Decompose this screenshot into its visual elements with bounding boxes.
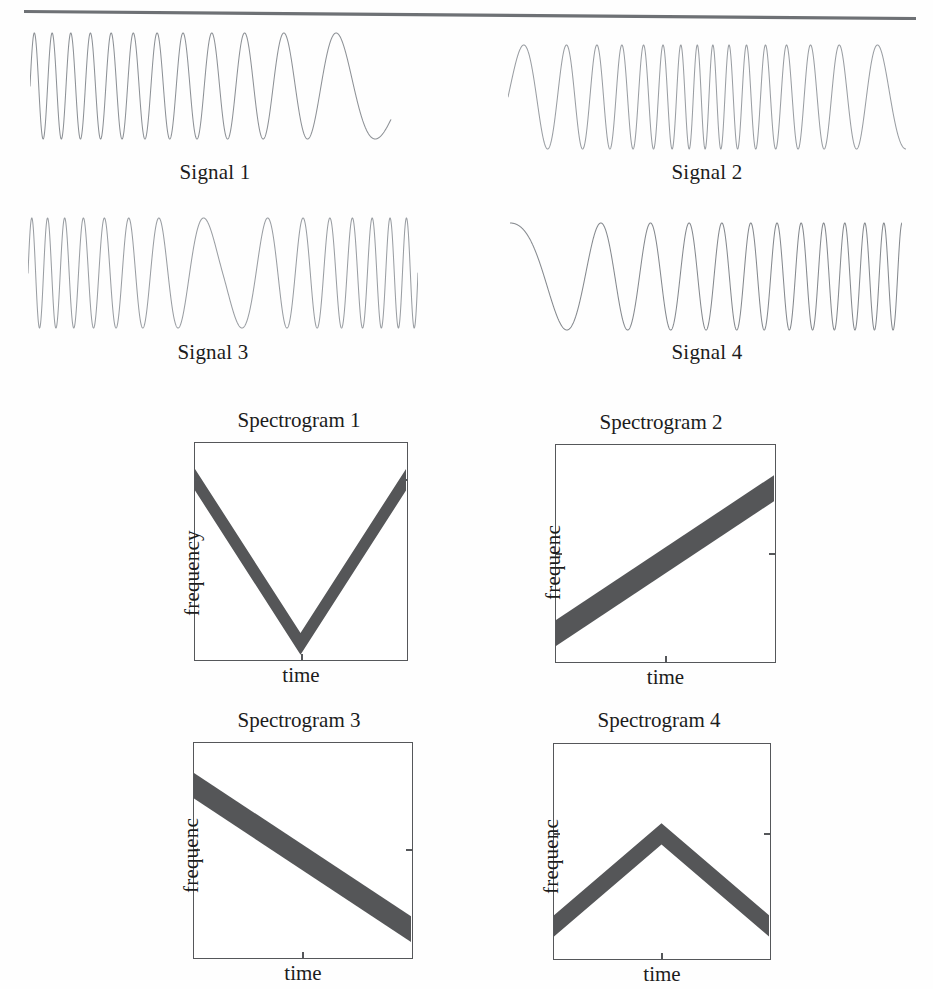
spectrogram-1-ytick-right: [401, 479, 408, 481]
figure-page: Signal 1 Signal 2 Signal 3 Signal 4 Spec…: [0, 0, 933, 989]
signal-caption-2: Signal 2: [612, 160, 802, 185]
spectrogram-3-xtick: [302, 952, 304, 959]
spectrogram-plot-4: [553, 743, 771, 960]
signal-plot-2: [508, 42, 906, 152]
spectrogram-plot-3: [193, 742, 413, 959]
signal-caption-4: Signal 4: [612, 340, 802, 365]
spectrogram-1-xtick: [301, 654, 303, 661]
spectrogram-title-3: Spectrogram 3: [144, 708, 454, 733]
spectrogram-1-xlabel: time: [194, 663, 408, 688]
signal-caption-1: Signal 1: [120, 160, 310, 185]
spectrogram-4-xlabel: time: [553, 962, 771, 987]
signal-plot-3: [28, 215, 418, 331]
signal-plot-1: [30, 30, 418, 142]
spectrogram-3-xlabel: time: [193, 961, 413, 986]
spectrogram-plot-1: [194, 442, 408, 661]
spectrogram-title-4: Spectrogram 4: [504, 708, 814, 733]
spectrogram-3-ytick-right: [406, 849, 413, 851]
spectrogram-2-xtick: [665, 656, 667, 663]
spectrogram-4-xtick: [661, 953, 663, 960]
spectrogram-panel-2: Spectrogram 2 frequenc time: [512, 410, 812, 680]
spectrogram-panel-4: Spectrogram 4 frequenc time: [510, 708, 810, 978]
spectrogram-2-xlabel: time: [555, 665, 776, 690]
signal-caption-3: Signal 3: [118, 340, 308, 365]
horizontal-rule: [24, 6, 916, 17]
spectrogram-1-ylabel: frequency: [180, 530, 205, 616]
signal-plot-4: [510, 220, 902, 333]
spectrogram-4-ytick-right: [764, 833, 771, 835]
spectrogram-panel-3: Spectrogram 3 frequenc time: [150, 708, 450, 978]
spectrogram-2-ytick-right: [769, 553, 776, 555]
spectrogram-title-2: Spectrogram 2: [506, 410, 816, 435]
spectrogram-3-ylabel: frequenc: [179, 818, 204, 893]
spectrogram-plot-2: [555, 444, 776, 663]
spectrogram-title-1: Spectrogram 1: [144, 408, 454, 433]
spectrogram-2-ylabel: frequenc: [541, 525, 566, 600]
spectrogram-panel-1: Spectrogram 1 frequency time: [150, 408, 450, 678]
spectrogram-4-ylabel: frequenc: [539, 819, 564, 894]
spectrogram-1-ytick: [194, 479, 201, 481]
